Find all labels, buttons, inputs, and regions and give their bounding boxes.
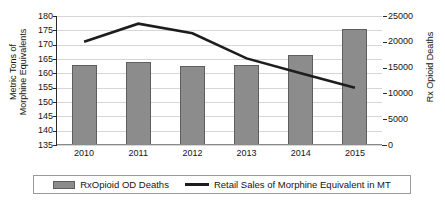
x-axis-label-2010: 2010 bbox=[54, 148, 114, 158]
y-axis-left-title-line1: Metric Tons of bbox=[8, 12, 18, 132]
y-axis-right-ticks: 2500020000150001000050000 bbox=[388, 0, 428, 203]
plot-baseline bbox=[57, 144, 382, 145]
legend-item-bars: RxOpioid OD Deaths bbox=[53, 180, 169, 190]
plot-area bbox=[57, 16, 382, 145]
bar-swatch-icon bbox=[53, 181, 75, 189]
y-axis-left-tick-label: 160 bbox=[20, 69, 53, 78]
y-axis-right-tickmark bbox=[383, 42, 387, 43]
x-axis-label-2014: 2014 bbox=[271, 148, 331, 158]
x-axis-label-2011: 2011 bbox=[108, 148, 168, 158]
y-axis-right-tick-label: 20000 bbox=[388, 37, 413, 46]
y-axis-left-tick-label: 140 bbox=[20, 126, 53, 135]
y-axis-right-tick-label: 10000 bbox=[388, 89, 413, 98]
y-axis-left-tick-label: 170 bbox=[20, 40, 53, 49]
x-axis-label-2012: 2012 bbox=[162, 148, 222, 158]
y-axis-right-tickmark bbox=[383, 93, 387, 94]
y-axis-left-tick-label: 180 bbox=[20, 12, 53, 21]
legend-item-line: Retail Sales of Morphine Equivalent in M… bbox=[185, 180, 391, 190]
y-axis-left-tick-label: 155 bbox=[20, 83, 53, 92]
y-axis-left-tick-label: 135 bbox=[20, 141, 53, 150]
y-axis-right-tickmark bbox=[383, 145, 387, 146]
y-axis-left-tick-label: 175 bbox=[20, 26, 53, 35]
gridline bbox=[57, 145, 382, 146]
y-axis-left-ticks: 180175170165160155150145140135 bbox=[20, 0, 53, 203]
y-axis-left-tick-label: 145 bbox=[20, 112, 53, 121]
line-series-path bbox=[84, 24, 355, 88]
line-series bbox=[57, 16, 382, 145]
y-axis-left-tick-label: 165 bbox=[20, 55, 53, 64]
chart-legend: RxOpioid OD Deaths Retail Sales of Morph… bbox=[33, 175, 411, 194]
legend-label-line: Retail Sales of Morphine Equivalent in M… bbox=[214, 180, 391, 190]
combo-chart: Metric Tons of Morphine Equivalents Rx O… bbox=[0, 0, 445, 203]
legend-label-bars: RxOpioid OD Deaths bbox=[80, 180, 169, 190]
y-axis-right-tickmark bbox=[383, 68, 387, 69]
y-axis-right-tick-label: 15000 bbox=[388, 63, 413, 72]
y-axis-left-tick-label: 150 bbox=[20, 98, 53, 107]
y-axis-right-tickmark bbox=[383, 16, 387, 17]
y-axis-right-tick-label: 25000 bbox=[388, 12, 413, 21]
line-swatch-icon bbox=[185, 183, 209, 186]
y-axis-right-tick-label: 0 bbox=[388, 141, 393, 150]
x-axis-label-2013: 2013 bbox=[217, 148, 277, 158]
y-axis-right-tick-label: 5000 bbox=[388, 115, 408, 124]
x-axis-label-2015: 2015 bbox=[325, 148, 385, 158]
y-axis-right-tickmark bbox=[383, 119, 387, 120]
